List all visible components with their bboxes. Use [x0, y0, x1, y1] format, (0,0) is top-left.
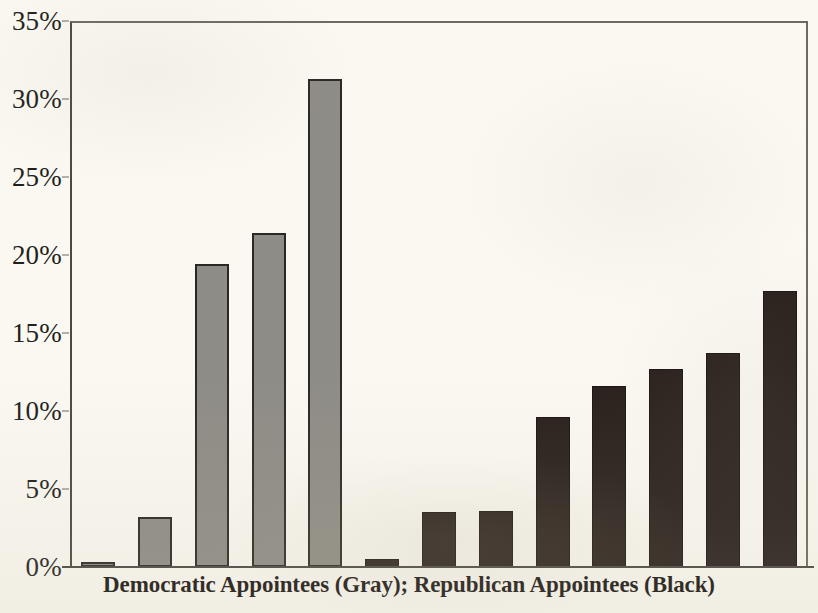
y-axis-tick-mark	[62, 489, 69, 490]
bar-5	[308, 79, 342, 567]
y-axis-tick-label: 5%	[26, 474, 62, 505]
x-axis-baseline	[62, 566, 814, 568]
bar-chart: 0%5%10%15%20%25%30%35% Democratic Appoin…	[0, 0, 818, 613]
bar-2	[138, 517, 172, 567]
y-axis-tick-label: 15%	[12, 318, 62, 349]
bar-4	[252, 233, 286, 567]
bar-12	[706, 353, 740, 567]
bar-7	[422, 512, 456, 567]
y-axis-tick-mark	[62, 21, 69, 22]
bar-8	[479, 511, 513, 567]
y-axis-tick-label: 30%	[12, 84, 62, 115]
bar-13	[763, 291, 797, 567]
y-axis-tick-mark	[62, 255, 69, 256]
x-axis-caption: Democratic Appointees (Gray); Republican…	[0, 572, 818, 598]
y-axis-tick-mark	[62, 333, 69, 334]
y-axis-tick-label: 10%	[12, 396, 62, 427]
y-axis-tick-label: 35%	[12, 6, 62, 37]
bar-11	[649, 369, 683, 567]
y-axis-tick-label: 25%	[12, 162, 62, 193]
bar-9	[536, 417, 570, 567]
plot-area	[70, 21, 808, 567]
bar-3	[195, 264, 229, 567]
y-axis-tick-label: 20%	[12, 240, 62, 271]
y-axis: 0%5%10%15%20%25%30%35%	[0, 0, 62, 613]
bar-10	[592, 386, 626, 567]
y-axis-tick-mark	[62, 99, 69, 100]
y-axis-tick-mark	[62, 411, 69, 412]
y-axis-tick-mark	[62, 177, 69, 178]
